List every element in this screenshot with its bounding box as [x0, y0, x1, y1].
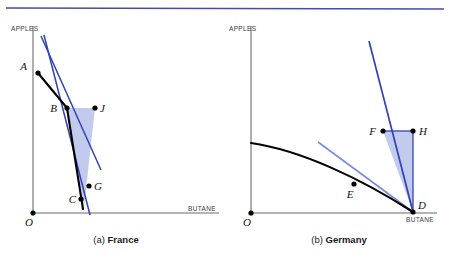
- germany-label-F: F: [368, 125, 376, 137]
- top-divider-rule: [6, 8, 444, 9]
- france-caption: (a) France: [93, 234, 138, 245]
- germany-label-D: D: [417, 199, 426, 211]
- france-label-A: A: [19, 60, 27, 72]
- france-label-G: G: [94, 180, 102, 192]
- germany-label-O: O: [243, 216, 251, 228]
- france-label-C: C: [69, 193, 77, 205]
- panel-france: APPLES BUTANE A B C G J O (a) France: [11, 25, 219, 245]
- germany-label-E: E: [346, 188, 354, 200]
- germany-caption-name: Germany: [326, 234, 368, 245]
- france-point-B: [64, 105, 69, 110]
- france-x-axis-label: BUTANE: [188, 205, 216, 212]
- france-caption-prefix: (a): [93, 234, 105, 245]
- france-point-G: [86, 183, 91, 188]
- france-point-C: [78, 196, 83, 201]
- germany-label-H: H: [418, 125, 428, 137]
- germany-point-D: [410, 209, 415, 214]
- germany-point-H: [410, 128, 415, 133]
- germany-ppf-curve: [251, 143, 413, 212]
- france-label-J: J: [100, 102, 106, 114]
- germany-y-axis-label: APPLES: [229, 25, 257, 32]
- germany-point-F: [380, 128, 385, 133]
- germany-point-E: [351, 181, 356, 186]
- france-label-B: B: [50, 102, 57, 114]
- panel-germany: APPLES BUTANE O E F H D (b) Germany: [229, 25, 437, 245]
- germany-caption: (b) Germany: [311, 234, 367, 245]
- germany-point-O: [248, 210, 253, 215]
- france-point-A: [35, 70, 40, 75]
- germany-gains-triangle: [383, 131, 413, 212]
- france-caption-name: France: [108, 234, 139, 245]
- france-point-O: [30, 210, 35, 215]
- germany-x-axis-label: BUTANE: [406, 216, 434, 223]
- france-y-axis-label: APPLES: [11, 25, 39, 32]
- france-label-O: O: [25, 216, 33, 228]
- germany-caption-prefix: (b): [311, 234, 323, 245]
- france-point-J: [92, 105, 97, 110]
- economics-figure: APPLES BUTANE A B C G J O (a) France: [0, 0, 450, 261]
